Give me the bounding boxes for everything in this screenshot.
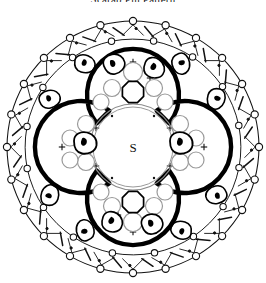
band-tick-mark	[175, 34, 181, 46]
band-dot	[70, 247, 72, 249]
outer-ring-arc	[166, 25, 196, 38]
outer-ring-node	[3, 143, 10, 150]
outer-ring-arc	[11, 180, 24, 210]
outer-ring-node	[192, 253, 199, 260]
ring-spoke	[11, 136, 22, 147]
outer-ring-node	[40, 233, 47, 240]
band-tick-mark	[14, 156, 22, 167]
ring-spoke	[235, 86, 239, 101]
round-bead	[146, 80, 163, 97]
round-bead	[157, 184, 173, 200]
round-bead	[78, 154, 95, 171]
round-bead	[93, 94, 109, 110]
band-dot	[247, 118, 249, 120]
outer-ring-node	[219, 54, 226, 61]
band-dot	[18, 112, 20, 114]
band-tick-mark	[234, 189, 246, 195]
cluster-bottom	[93, 184, 173, 237]
ring-spoke	[94, 252, 102, 265]
inner-ring-node	[236, 122, 242, 128]
ring-spoke	[27, 82, 42, 86]
outer-ring-node	[239, 80, 246, 87]
round-bead	[157, 94, 173, 110]
band-tick-mark	[23, 184, 28, 197]
ring-spoke	[165, 29, 173, 42]
ring-spoke	[244, 115, 252, 128]
center-label: S	[129, 140, 136, 155]
band-tick-mark	[113, 28, 124, 36]
diagram-root: S	[3, 17, 262, 276]
interior-dot	[153, 115, 155, 117]
ring-spoke	[68, 41, 72, 56]
outer-ring-node	[8, 176, 15, 183]
ring-spoke	[179, 41, 194, 45]
ring-spoke	[101, 258, 114, 266]
octagon-bead	[122, 191, 143, 212]
band-dot	[218, 64, 220, 66]
outer-ring-node	[129, 17, 136, 24]
round-bead	[93, 184, 109, 200]
outer-ring-node	[20, 80, 27, 87]
round-bead	[146, 198, 163, 215]
outer-ring-node	[20, 206, 27, 213]
round-bead	[124, 63, 143, 82]
ring-spoke	[15, 108, 28, 116]
outer-ring-node	[219, 233, 226, 240]
inner-ring-arc	[112, 39, 154, 41]
band-dot	[50, 60, 52, 62]
band-tick-mark	[40, 210, 41, 224]
ring-spoke	[245, 136, 256, 147]
band-tick-mark	[113, 257, 122, 267]
band-tick-mark	[56, 54, 70, 55]
band-dot	[46, 227, 48, 229]
band-tick-mark	[60, 232, 62, 245]
outer-ring-arc	[255, 114, 259, 147]
outer-ring-node	[255, 143, 262, 150]
ring-spoke	[122, 259, 133, 270]
ring-spoke	[133, 25, 144, 36]
outer-ring-arc	[24, 58, 44, 84]
ring-spoke	[27, 193, 31, 208]
band-dot	[13, 143, 15, 145]
outer-ring-arc	[222, 210, 242, 236]
outer-ring-node	[129, 269, 136, 276]
inner-ring-node	[108, 38, 114, 44]
band-tick-mark	[245, 127, 253, 138]
band-dot	[160, 261, 162, 263]
band-tick-mark	[13, 127, 23, 136]
ring-spoke	[235, 193, 239, 208]
inner-ring-node	[150, 38, 156, 44]
inner-ring-node	[24, 165, 30, 171]
band-dot	[250, 149, 252, 151]
band-dot	[194, 45, 196, 47]
ring-spoke	[68, 238, 72, 253]
outer-ring-node	[8, 111, 15, 118]
round-bead	[172, 116, 189, 133]
pattern-svg: S	[0, 0, 266, 283]
outer-ring-node	[162, 22, 169, 29]
outer-ring-node	[192, 34, 199, 41]
band-dot	[104, 31, 106, 33]
outer-ring-arc	[166, 256, 196, 269]
outer-ring-arc	[100, 21, 133, 25]
ring-spoke	[15, 179, 28, 187]
scarab-bead	[74, 132, 97, 154]
ring-spoke	[94, 29, 102, 42]
interior-dot	[111, 115, 113, 117]
band-tick-mark	[85, 248, 91, 260]
band-dot	[166, 32, 168, 34]
inner-ring-node	[109, 250, 115, 256]
outer-ring-node	[162, 265, 169, 272]
band-tick-mark	[20, 99, 32, 105]
ring-spoke	[194, 238, 198, 253]
scarab-bead	[170, 132, 193, 154]
band-dot	[213, 232, 215, 234]
inner-ring-node	[24, 123, 30, 129]
outer-ring-node	[97, 22, 104, 29]
band-dot	[135, 27, 137, 29]
outer-ring-node	[251, 176, 258, 183]
inner-ring-node	[70, 234, 76, 240]
outer-ring-arc	[70, 25, 100, 38]
ring-spoke	[72, 249, 87, 253]
interior-dot	[111, 177, 113, 179]
